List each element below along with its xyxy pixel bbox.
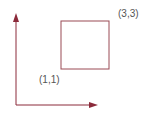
x-axis-arrowhead-icon xyxy=(89,102,98,108)
label-bottom-left-corner: (1,1) xyxy=(39,75,60,85)
label-top-right-corner: (3,3) xyxy=(118,9,139,19)
y-axis-arrowhead-icon xyxy=(13,13,19,22)
square xyxy=(61,21,109,69)
